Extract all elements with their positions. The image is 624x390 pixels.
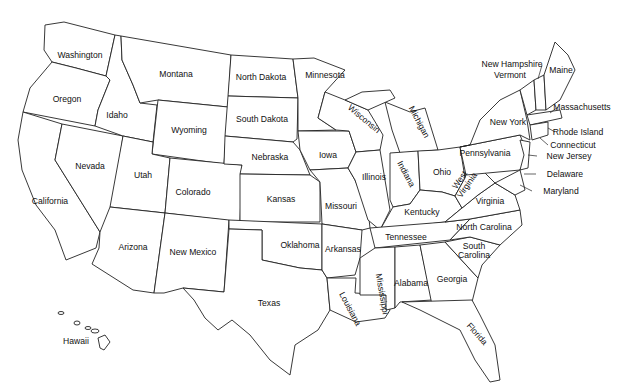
state-label-massachusetts: Massachusetts [553,103,610,112]
state-label-california: California [32,197,68,206]
state-label-hawaii: Hawaii [63,337,89,346]
state-label-utah: Utah [134,171,152,180]
state-label-illinois: Illinois [362,173,386,182]
state-label-new-mexico: New Mexico [170,248,217,257]
state-label-arizona: Arizona [118,243,147,252]
state-label-oklahoma: Oklahoma [280,241,319,250]
state-label-idaho: Idaho [106,111,128,120]
state-label-connecticut: Connecticut [550,141,595,150]
state-label-missouri: Missouri [325,202,357,211]
state-label-georgia: Georgia [437,275,468,284]
state-label-new-hampshire: New Hampshire [481,60,542,69]
state-label-new-jersey: New Jersey [547,152,592,161]
state-label-nevada: Nevada [75,162,105,171]
state-label-wyoming: Wyoming [171,126,207,135]
state-label-minnesota: Minnesota [305,71,345,80]
state-label-oregon: Oregon [53,95,82,104]
state-label-montana: Montana [159,70,192,79]
state-label-iowa: Iowa [319,151,337,160]
state-label-north-dakota: North Dakota [236,73,287,82]
state-label-kansas: Kansas [267,195,296,204]
state-label-south-carolina: SouthCarolina [458,242,490,261]
state-label-virginia: Virginia [476,197,505,206]
us-states-map: WashingtonOregonCaliforniaIdahoNevadaMon… [0,0,624,390]
state-label-new-york: New York [490,118,526,127]
state-label-rhode-island: Rhode Island [553,128,604,137]
state-label-delaware: Delaware [547,170,583,179]
state-label-washington: Washington [57,51,102,60]
state-label-maryland: Maryland [543,187,578,196]
state-label-tennessee: Tennessee [385,233,427,242]
state-label-kentucky: Kentucky [404,208,439,217]
state-label-colorado: Colorado [176,188,211,197]
state-label-ohio: Ohio [433,168,451,177]
state-label-arkansas: Arkansas [325,245,361,254]
state-label-texas: Texas [258,299,280,308]
state-label-south-dakota: South Dakota [236,115,288,124]
state-label-nebraska: Nebraska [252,153,289,162]
state-label-maine: Maine [549,66,572,75]
state-label-vermont: Vermont [494,71,526,80]
state-label-alabama: Alabama [394,279,428,288]
state-label-north-carolina: North Carolina [456,223,511,232]
state-label-pennsylvania: Pennsylvania [459,149,510,158]
